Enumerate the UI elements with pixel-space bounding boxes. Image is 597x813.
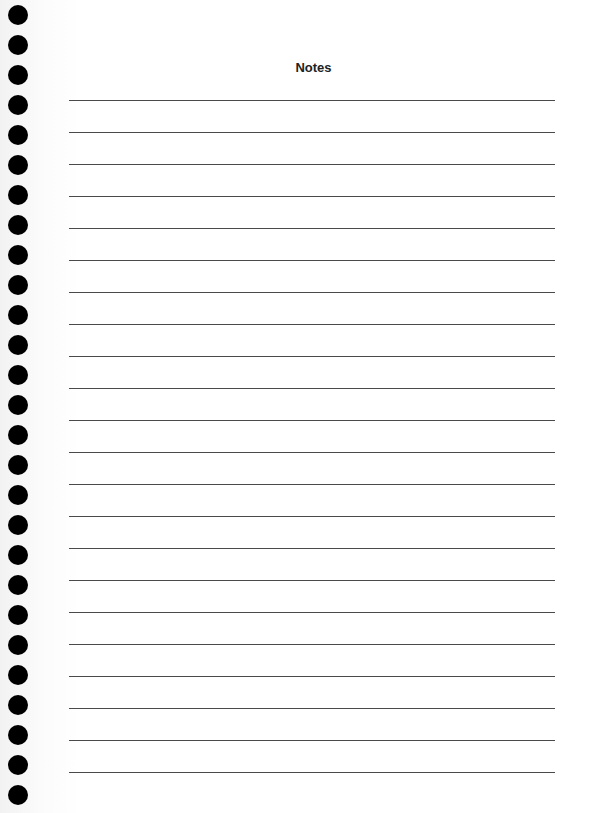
punch-hole-icon bbox=[8, 545, 28, 565]
punch-hole-icon bbox=[8, 695, 28, 715]
ruled-line bbox=[69, 516, 555, 517]
punch-hole-icon bbox=[8, 245, 28, 265]
punch-hole-icon bbox=[8, 605, 28, 625]
notes-page: Notes bbox=[0, 0, 597, 813]
punch-hole-icon bbox=[8, 185, 28, 205]
ruled-line bbox=[69, 740, 555, 741]
ruled-line bbox=[69, 484, 555, 485]
ruled-line bbox=[69, 452, 555, 453]
ruled-line bbox=[69, 548, 555, 549]
ruled-line bbox=[69, 164, 555, 165]
punch-hole-icon bbox=[8, 365, 28, 385]
punch-hole-icon bbox=[8, 575, 28, 595]
ruled-line bbox=[69, 612, 555, 613]
punch-hole-icon bbox=[8, 725, 28, 745]
punch-hole-icon bbox=[8, 485, 28, 505]
ruled-line bbox=[69, 292, 555, 293]
ruled-line bbox=[69, 644, 555, 645]
ruled-line bbox=[69, 772, 555, 773]
punch-hole-icon bbox=[8, 275, 28, 295]
punch-hole-icon bbox=[8, 515, 28, 535]
ruled-line bbox=[69, 676, 555, 677]
punch-hole-icon bbox=[8, 5, 28, 25]
page-title: Notes bbox=[0, 60, 597, 75]
punch-hole-icon bbox=[8, 755, 28, 775]
punch-hole-icon bbox=[8, 335, 28, 355]
ruled-line bbox=[69, 356, 555, 357]
ruled-line bbox=[69, 196, 555, 197]
punch-hole-icon bbox=[8, 455, 28, 475]
ruled-line bbox=[69, 132, 555, 133]
punch-hole-icon bbox=[8, 305, 28, 325]
punch-hole-icon bbox=[8, 785, 28, 805]
punch-hole-icon bbox=[8, 425, 28, 445]
ruled-line bbox=[69, 580, 555, 581]
punch-hole-icon bbox=[8, 155, 28, 175]
punch-hole-icon bbox=[8, 95, 28, 115]
ruled-line bbox=[69, 708, 555, 709]
ruled-line bbox=[69, 100, 555, 101]
punch-hole-icon bbox=[8, 215, 28, 235]
punch-hole-icon bbox=[8, 125, 28, 145]
ruled-line bbox=[69, 260, 555, 261]
ruled-line bbox=[69, 324, 555, 325]
punch-hole-icon bbox=[8, 665, 28, 685]
punch-hole-icon bbox=[8, 395, 28, 415]
ruled-line bbox=[69, 420, 555, 421]
ruled-line bbox=[69, 228, 555, 229]
ruled-line bbox=[69, 388, 555, 389]
punch-hole-icon bbox=[8, 35, 28, 55]
punch-hole-icon bbox=[8, 635, 28, 655]
